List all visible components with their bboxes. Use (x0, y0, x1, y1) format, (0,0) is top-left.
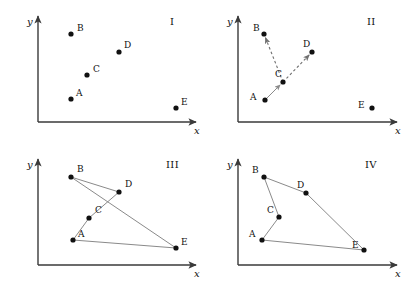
point-label-b: B (253, 24, 260, 33)
panel-2: ABCDExyII (205, 0, 409, 143)
edge-A-C (265, 85, 280, 100)
point-label-e: E (181, 98, 188, 107)
point-label-b: B (77, 165, 84, 174)
point-label-b: B (252, 166, 259, 175)
point-label-d: D (297, 181, 304, 190)
point-label-e: E (352, 241, 359, 250)
point-label-e: E (358, 101, 365, 110)
data-point-e (369, 105, 374, 110)
figure-root: ABCDExyIABCDExyIIABCDExyIIIABCDExyIV (0, 0, 409, 286)
data-point-b (68, 174, 73, 179)
data-point-a (259, 237, 264, 242)
point-label-a: A (76, 89, 83, 98)
panel-number-iv: IV (365, 160, 377, 170)
data-point-a (70, 237, 75, 242)
data-point-e (173, 245, 178, 250)
panel-4-canvas (205, 143, 409, 286)
point-label-c: C (267, 206, 274, 215)
panel-4: ABCDExyIV (205, 143, 409, 286)
point-label-c: C (275, 70, 282, 79)
data-point-c (276, 214, 281, 219)
x-axis-label: x (395, 126, 401, 136)
data-point-e (173, 105, 178, 110)
x-axis-label: x (395, 269, 401, 279)
point-label-e: E (181, 238, 188, 247)
panel-2-canvas (205, 0, 409, 143)
data-point-b (261, 31, 266, 36)
point-label-b: B (77, 24, 84, 33)
data-point-d (116, 189, 121, 194)
edge-A-E (262, 240, 364, 250)
panel-3: ABCDExyIII (0, 143, 204, 286)
point-label-a: A (249, 230, 256, 239)
point-label-a: A (78, 230, 85, 239)
point-label-a: A (250, 93, 257, 102)
panel-number-ii: II (367, 17, 376, 27)
point-label-d: D (125, 180, 132, 189)
point-label-c: C (95, 206, 102, 215)
data-point-c (280, 79, 285, 84)
panel-number-i: I (170, 17, 174, 27)
edge-C-D (283, 55, 309, 82)
data-point-d (309, 49, 314, 54)
panel-1: ABCDExyI (0, 0, 204, 143)
data-point-d (303, 190, 308, 195)
y-axis-label: y (227, 160, 233, 170)
x-axis-label: x (194, 126, 200, 136)
y-axis-label: y (227, 17, 233, 27)
edge-B-D (71, 177, 119, 192)
y-axis-label: y (27, 160, 33, 170)
edge-A-C (262, 217, 279, 240)
data-point-d (116, 49, 121, 54)
data-point-a (262, 97, 267, 102)
edge-C-D (89, 192, 119, 218)
edge-A-E (73, 240, 176, 248)
data-point-c (84, 72, 89, 77)
point-label-c: C (93, 65, 100, 74)
data-point-e (361, 247, 366, 252)
data-point-c (86, 215, 91, 220)
panel-number-iii: III (166, 160, 179, 170)
data-point-b (261, 174, 266, 179)
edge-B-E (71, 177, 176, 248)
data-point-b (68, 31, 73, 36)
point-label-d: D (303, 40, 310, 49)
point-label-d: D (124, 41, 131, 50)
y-axis-label: y (27, 17, 33, 27)
x-axis-label: x (194, 269, 200, 279)
data-point-a (68, 96, 73, 101)
